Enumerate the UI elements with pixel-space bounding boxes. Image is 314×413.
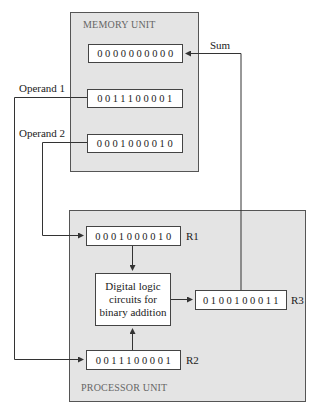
connection-wires — [0, 0, 314, 413]
operand-2-wire — [43, 143, 88, 236]
operand-1-wire — [15, 98, 88, 360]
sum-wire — [186, 54, 241, 291]
